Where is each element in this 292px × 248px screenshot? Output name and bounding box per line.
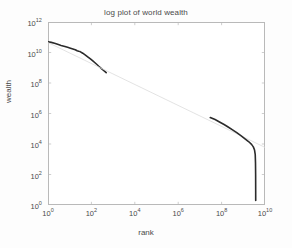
y-axis-tick-label: 104	[31, 139, 45, 150]
figure-canvas: log plot of world wealth wealth 100 102 …	[0, 0, 292, 248]
y-axis-tick-label: 1010	[27, 48, 44, 59]
y-axis-tick-labels: 100 102 104 106 108 1010 1012	[0, 22, 44, 205]
y-axis-tick-label: 106	[31, 109, 45, 120]
y-axis-tick-label: 1012	[27, 17, 44, 28]
x-axis-tick-label: 106	[172, 207, 183, 218]
chart-title: log plot of world wealth	[0, 8, 292, 17]
x-axis-tick-label: 104	[129, 207, 140, 218]
x-axis-title-text: rank	[138, 228, 154, 237]
x-axis-title: rank	[0, 228, 292, 237]
y-axis-tick-label: 102	[31, 170, 45, 181]
data-series-line	[48, 43, 265, 148]
x-axis-tick-label: 1010	[258, 207, 272, 218]
y-axis-tick-label: 108	[31, 78, 45, 89]
data-series-line	[210, 117, 255, 200]
plot-svg	[48, 22, 265, 205]
plot-area	[48, 22, 265, 205]
x-axis-tick-label: 102	[86, 207, 97, 218]
x-axis-tick-labels: 1001021041061081010	[0, 207, 292, 223]
x-axis-tick-label: 100	[42, 207, 53, 218]
x-axis-tick-label: 108	[216, 207, 227, 218]
